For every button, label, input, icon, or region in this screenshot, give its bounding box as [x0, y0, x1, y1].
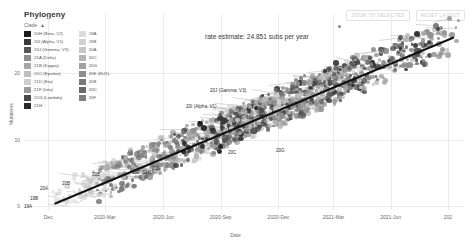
legend-item[interactable]: 20B [79, 78, 110, 85]
tip-point[interactable] [73, 189, 75, 191]
tip-point[interactable] [352, 70, 355, 73]
legend-item[interactable]: 20A [79, 46, 110, 53]
tip-point[interactable] [149, 158, 152, 161]
tip-point[interactable] [285, 111, 289, 115]
tip-point[interactable] [232, 137, 237, 142]
tip-point[interactable] [277, 100, 281, 104]
tip-point[interactable] [266, 127, 271, 132]
tip-point[interactable] [326, 98, 332, 104]
tip-point[interactable] [226, 146, 229, 149]
tip-point[interactable] [96, 199, 101, 204]
tip-point[interactable] [285, 87, 288, 90]
tip-point[interactable] [358, 58, 362, 62]
tip-point[interactable] [185, 124, 189, 128]
tip-point[interactable] [161, 162, 164, 165]
tip-point[interactable] [232, 106, 236, 110]
tip-point[interactable] [174, 139, 178, 143]
tip-point[interactable] [109, 195, 112, 198]
tip-point[interactable] [72, 172, 78, 178]
tip-point[interactable] [94, 196, 96, 198]
tip-point[interactable] [181, 128, 186, 133]
legend-header[interactable]: Clade ▲ [24, 22, 109, 28]
tip-point[interactable] [281, 86, 285, 90]
tip-point[interactable] [359, 86, 362, 89]
tip-point[interactable] [149, 142, 154, 147]
tip-point[interactable] [368, 56, 372, 60]
tip-point[interactable] [414, 31, 420, 37]
tip-point[interactable] [207, 147, 210, 150]
tip-point[interactable] [220, 124, 223, 127]
legend-item[interactable]: 21B (Kappa) [24, 62, 69, 69]
tip-point[interactable] [279, 90, 284, 95]
legend-item[interactable]: 21F (Iota) [24, 86, 69, 93]
tip-point[interactable] [337, 96, 340, 99]
tip-point[interactable] [192, 157, 198, 163]
tip-point[interactable] [173, 163, 179, 169]
tip-point[interactable] [210, 128, 216, 134]
tip-point[interactable] [132, 184, 137, 189]
tip-point[interactable] [73, 179, 76, 182]
tip-point[interactable] [261, 104, 265, 108]
tip-point[interactable] [77, 201, 79, 203]
tip-point[interactable] [268, 99, 273, 104]
tip-point[interactable] [267, 124, 270, 127]
tip-point[interactable] [67, 186, 70, 189]
tip-point[interactable] [378, 58, 381, 61]
legend-item[interactable]: 20G [79, 62, 110, 69]
tip-point[interactable] [86, 177, 89, 180]
tip-point[interactable] [436, 31, 440, 35]
tip-point[interactable] [445, 48, 449, 52]
tip-point[interactable] [313, 78, 317, 82]
tip-point[interactable] [442, 30, 447, 35]
tip-point[interactable] [244, 133, 248, 137]
tip-point[interactable] [235, 112, 239, 116]
tip-point[interactable] [115, 186, 118, 189]
tip-point[interactable] [199, 150, 202, 153]
tip-point[interactable] [176, 134, 181, 139]
legend-item[interactable]: 21D (Eta) [24, 78, 69, 85]
tip-point[interactable] [323, 69, 327, 73]
tip-point[interactable] [251, 128, 257, 134]
tip-point[interactable] [427, 32, 433, 38]
tip-point[interactable] [374, 53, 378, 57]
tip-point[interactable] [307, 89, 313, 95]
tip-point[interactable] [288, 98, 291, 101]
tip-point[interactable] [157, 144, 160, 147]
tip-point[interactable] [384, 49, 389, 54]
tip-point[interactable] [347, 89, 351, 93]
legend-item[interactable]: 20D [79, 86, 110, 93]
tip-point[interactable] [117, 163, 122, 168]
tip-point[interactable] [301, 103, 304, 106]
tip-point[interactable] [194, 127, 198, 131]
legend-item[interactable]: 21G (Lambda) [24, 94, 69, 101]
tip-point[interactable] [250, 134, 255, 139]
tip-point[interactable] [238, 131, 242, 135]
legend-item[interactable]: 21A (Delta) [24, 54, 69, 61]
tip-point[interactable] [375, 75, 378, 78]
legend-item[interactable]: 19B [79, 38, 110, 45]
tip-point[interactable] [392, 69, 396, 73]
tip-point[interactable] [405, 68, 408, 71]
tip-point[interactable] [421, 31, 426, 36]
tip-point[interactable] [135, 165, 137, 167]
tip-point[interactable] [164, 170, 166, 172]
tip-point[interactable] [278, 124, 283, 129]
tip-point[interactable] [232, 120, 235, 123]
tip-point[interactable] [298, 90, 301, 93]
tip-point[interactable] [312, 84, 315, 87]
tip-point[interactable] [305, 103, 310, 108]
tip-point[interactable] [131, 178, 135, 182]
legend-item[interactable]: 20C [79, 54, 110, 61]
legend-item[interactable]: 19A [79, 30, 110, 37]
tip-point[interactable] [383, 78, 389, 84]
legend-item[interactable]: 20F [79, 94, 110, 101]
selected-tip-marker[interactable] [338, 25, 341, 28]
tip-point[interactable] [57, 188, 62, 193]
tip-point[interactable] [84, 193, 88, 197]
tip-point[interactable] [119, 181, 124, 186]
tip-point[interactable] [209, 118, 213, 122]
tip-point[interactable] [111, 187, 114, 190]
tip-point[interactable] [192, 136, 195, 139]
tip-point[interactable] [333, 60, 338, 65]
tip-point[interactable] [445, 52, 450, 57]
